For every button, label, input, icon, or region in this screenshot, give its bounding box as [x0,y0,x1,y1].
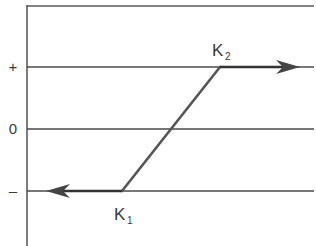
k2-label: K 2 [212,41,231,62]
hysteresis-diagram: + 0 – K 2 K 1 [0,0,316,246]
minus-label: – [9,182,18,199]
k1-subscript: 1 [127,215,133,226]
zero-label: 0 [9,120,17,137]
k2-subscript: 2 [225,51,231,62]
k1-letter: K [114,205,126,224]
k2-letter: K [212,41,224,60]
plus-label: + [9,58,18,75]
k1-label: K 1 [114,205,133,226]
